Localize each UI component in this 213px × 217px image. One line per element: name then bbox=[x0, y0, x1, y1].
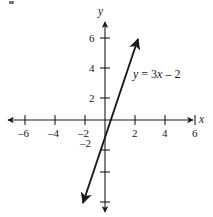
y-axis-label: y bbox=[98, 6, 103, 18]
x-axis bbox=[8, 115, 195, 125]
graph-canvas bbox=[0, 0, 213, 217]
x-axis-label: x bbox=[199, 114, 204, 126]
x-tick-label-neg6: –6 bbox=[18, 128, 29, 139]
x-tick-label-pos6: 6 bbox=[192, 128, 198, 139]
y-axis bbox=[100, 22, 110, 212]
y-tick-label-pos6: 6 bbox=[89, 33, 95, 44]
graph-figure: x y –6 –4 –2 2 4 6 6 4 2 –2 y = 3x – 2 bbox=[0, 0, 213, 217]
equation-constant: 2 bbox=[174, 67, 180, 81]
equation-annotation: y = 3x – 2 bbox=[133, 68, 180, 80]
y-tick-label-pos2: 2 bbox=[89, 93, 95, 104]
y-tick-label-pos4: 4 bbox=[89, 63, 95, 74]
y-tick-label-neg2: –2 bbox=[80, 138, 91, 149]
x-tick-label-pos2: 2 bbox=[132, 128, 138, 139]
x-tick-label-neg4: –4 bbox=[48, 128, 59, 139]
x-tick-label-pos4: 4 bbox=[162, 128, 168, 139]
